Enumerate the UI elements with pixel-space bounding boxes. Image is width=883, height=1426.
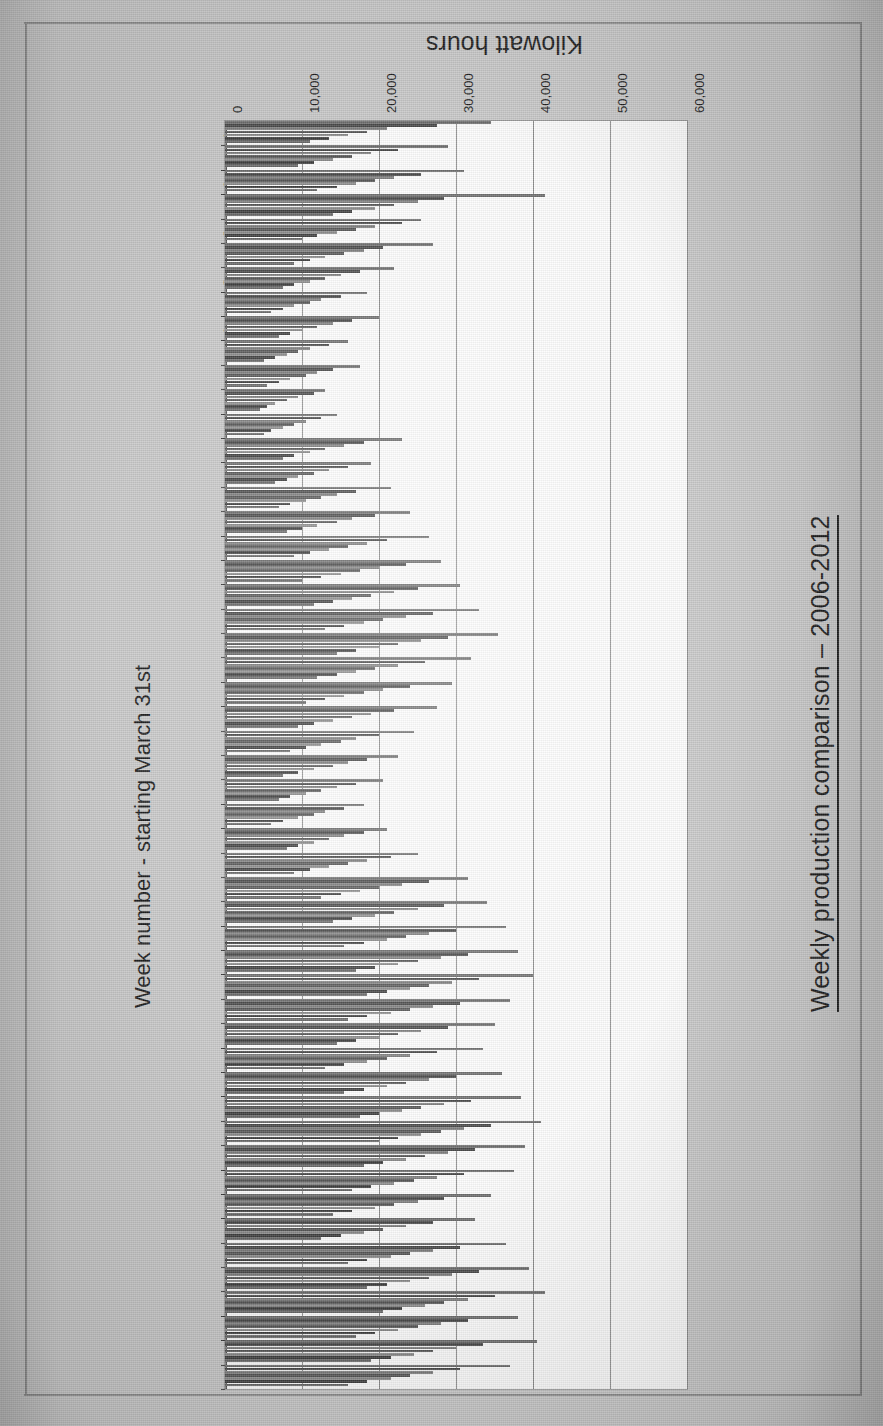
bar-group (225, 316, 687, 340)
bar-group (225, 414, 687, 438)
bar (225, 189, 317, 192)
bar-group (225, 219, 687, 243)
bar-group (225, 462, 687, 486)
bar-group (225, 828, 687, 852)
bar-group (225, 1170, 687, 1194)
bar (225, 408, 260, 411)
bar-group (225, 1121, 687, 1145)
scan-edge-right (860, 22, 862, 1396)
bar-group (225, 609, 687, 633)
bar (225, 676, 317, 679)
bar-group (225, 1365, 687, 1389)
bar (225, 481, 275, 484)
bar-group (225, 1218, 687, 1242)
bar (225, 1140, 379, 1143)
bar (225, 872, 294, 875)
bar-group (225, 292, 687, 316)
bar-group (225, 999, 687, 1023)
bar (225, 164, 298, 167)
bar-group (225, 584, 687, 608)
bar (225, 1237, 321, 1240)
bar-group (225, 682, 687, 706)
bar-group (225, 1096, 687, 1120)
bar (225, 140, 310, 143)
bar-group (225, 1072, 687, 1096)
bar-group (225, 389, 687, 413)
bar (225, 359, 264, 362)
bar (225, 1335, 356, 1338)
bar-group (225, 1243, 687, 1267)
bar (225, 628, 325, 631)
bar (225, 1018, 348, 1021)
value-axis-tick-label: 0 (230, 106, 245, 113)
bar-group (225, 340, 687, 364)
value-axis-tick-label: 50,000 (615, 73, 630, 113)
bar (225, 750, 290, 753)
bar (225, 384, 267, 387)
bar-group (225, 853, 687, 877)
bar-group (225, 1267, 687, 1291)
bar-group (225, 536, 687, 560)
bar-group (225, 1316, 687, 1340)
bar (225, 774, 283, 777)
bar (225, 433, 264, 436)
bar (225, 652, 337, 655)
bar-group (225, 170, 687, 194)
bar (225, 1262, 348, 1265)
bar-group (225, 755, 687, 779)
bar-group (225, 267, 687, 291)
bar (225, 335, 279, 338)
bar (225, 579, 302, 582)
bar (225, 701, 306, 704)
value-axis-tick-label: 10,000 (307, 73, 322, 113)
bar (225, 823, 271, 826)
bar-group (225, 194, 687, 218)
bar (225, 993, 367, 996)
scan-edge-left (25, 22, 27, 1396)
bar (225, 457, 283, 460)
bar (225, 286, 283, 289)
bar (225, 920, 333, 923)
chart-title: Weekly production comparison – 2006-2012 (806, 515, 839, 1012)
bar-group (225, 1145, 687, 1169)
gridline (687, 121, 688, 1389)
bar-group (225, 926, 687, 950)
bar-group (225, 1291, 687, 1315)
category-tick-mark (221, 1389, 225, 1390)
bar-group (225, 1048, 687, 1072)
value-axis-tick-label: 30,000 (461, 73, 476, 113)
bar-group (225, 633, 687, 657)
bar (225, 1091, 344, 1094)
bar (225, 1359, 371, 1362)
bar (225, 798, 279, 801)
bar-group (225, 365, 687, 389)
bar (225, 1067, 325, 1070)
bar (225, 847, 287, 850)
scan-edge-bottom (24, 1394, 862, 1396)
bar (225, 945, 344, 948)
value-axis-tick-label: 20,000 (384, 73, 399, 113)
scanned-page: Kilowatt hours Weekly production compari… (0, 0, 883, 1426)
bar (225, 1286, 367, 1289)
bar (225, 1189, 352, 1192)
bar (225, 896, 321, 899)
bar-group (225, 877, 687, 901)
bar-group (225, 974, 687, 998)
bar (225, 1115, 360, 1118)
bar (225, 1384, 348, 1387)
bar (225, 530, 287, 533)
bar (225, 1213, 333, 1216)
bar-group (225, 560, 687, 584)
bar-group (225, 901, 687, 925)
bar-group (225, 438, 687, 462)
bar (225, 311, 271, 314)
value-axis-tick-label: 40,000 (538, 73, 553, 113)
bar-group (225, 121, 687, 145)
bar-group (225, 145, 687, 169)
bar-group (225, 1194, 687, 1218)
bar (225, 238, 302, 241)
bar-group (225, 779, 687, 803)
value-axis-tick-label: 60,000 (692, 73, 707, 113)
plot-area (225, 121, 687, 1389)
bar-group (225, 731, 687, 755)
